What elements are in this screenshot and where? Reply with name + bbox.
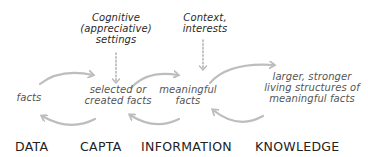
stage-label-information: INFORMATION (141, 140, 232, 154)
forward-arrow-data-to-capta (40, 73, 93, 84)
node-capta-facts: selected or created facts (80, 84, 156, 106)
backward-arrow-knowledge-to-information (213, 110, 263, 122)
input-cognitive-line-1: Cognitive (78, 12, 154, 23)
node-information-line-2: facts (158, 95, 218, 106)
node-capta-line-1: selected or (80, 84, 156, 95)
backward-arrow-capta-to-data (42, 116, 95, 125)
input-cognitive-line-2: (appreciative) (78, 23, 154, 34)
node-knowledge-structures: larger, stronger living structures of me… (256, 71, 368, 104)
node-knowledge-line-1: larger, stronger (256, 71, 368, 82)
node-knowledge-line-3: meaningful facts (256, 93, 368, 104)
input-context-line-1: Context, (176, 12, 234, 23)
input-context-line-2: interests (176, 23, 234, 34)
node-capta-line-2: created facts (80, 95, 156, 106)
input-cognitive-settings: Cognitive (appreciative) settings (78, 12, 154, 45)
node-data-facts: facts (14, 92, 44, 103)
input-context-interests: Context, interests (176, 12, 234, 34)
dotted-arrow-context (200, 40, 207, 70)
stage-label-data: DATA (15, 140, 48, 154)
input-cognitive-line-3: settings (78, 34, 154, 45)
node-data-line-1: facts (14, 92, 44, 103)
node-information-line-1: meaningful (158, 84, 218, 95)
backward-arrow-information-to-capta (130, 115, 179, 124)
node-information-facts: meaningful facts (158, 84, 218, 106)
dotted-arrow-cognitive (113, 53, 120, 83)
stage-label-capta: CAPTA (80, 140, 122, 154)
node-knowledge-line-2: living structures of (256, 82, 368, 93)
stage-label-knowledge: KNOWLEDGE (255, 140, 340, 154)
